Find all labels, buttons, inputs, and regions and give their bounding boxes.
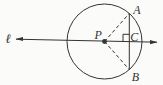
point-p-dot: [102, 39, 107, 44]
right-angle-mark: [123, 34, 129, 41]
point-p-label: P: [94, 28, 103, 42]
dashed-segment-pa: [105, 13, 130, 41]
point-b-label: B: [132, 70, 140, 84]
geometry-figure: ℓ P A B C: [0, 0, 163, 85]
right-arrowhead: [150, 40, 158, 44]
point-c-label: C: [130, 30, 139, 44]
label-group: ℓ P A B C: [6, 3, 142, 84]
dashed-segment-pb: [105, 42, 130, 70]
left-arrowhead: [16, 37, 24, 41]
line-l-label: ℓ: [6, 31, 12, 46]
geometry-diagram: ℓ P A B C: [0, 0, 163, 85]
point-a-label: A: [132, 3, 141, 17]
